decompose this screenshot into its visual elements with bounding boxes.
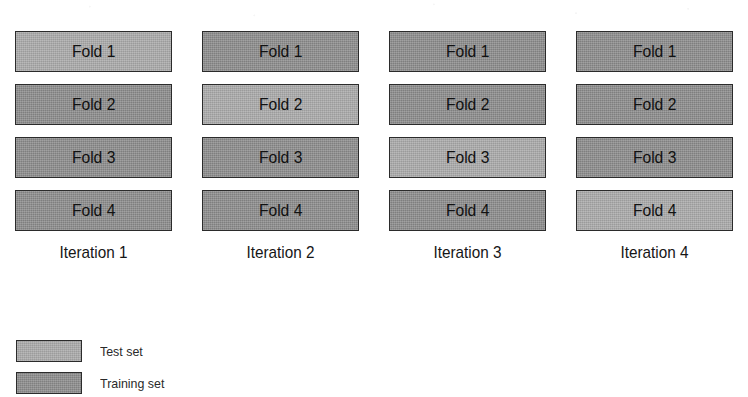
legend-label: Test set <box>100 344 143 359</box>
fold-block-i3-f3: Fold 3 <box>389 137 546 178</box>
legend-item-training-set: Training set <box>16 372 316 394</box>
fold-label: Fold 2 <box>446 95 489 115</box>
iteration-column-4: Fold 1 Fold 2 Fold 3 Fold 4 <box>576 31 733 231</box>
iteration-caption-4: Iteration 4 <box>584 243 725 269</box>
fold-label: Fold 2 <box>72 95 115 115</box>
iteration-columns: Fold 1 Fold 2 Fold 3 Fold 4 Fold 1 Fold … <box>15 31 733 231</box>
fold-label: Fold 2 <box>633 95 676 115</box>
legend-swatch-training-set <box>16 372 82 394</box>
fold-label: Fold 1 <box>72 42 115 62</box>
fold-label: Fold 3 <box>633 148 676 168</box>
fold-block-i1-f3: Fold 3 <box>15 137 172 178</box>
fold-block-i1-f2: Fold 2 <box>15 84 172 125</box>
fold-block-i4-f2: Fold 2 <box>576 84 733 125</box>
fold-block-i3-f4: Fold 4 <box>389 190 546 231</box>
iteration-captions: Iteration 1 Iteration 2 Iteration 3 Iter… <box>15 243 733 269</box>
fold-label: Fold 1 <box>633 42 676 62</box>
iteration-column-1: Fold 1 Fold 2 Fold 3 Fold 4 <box>15 31 172 231</box>
iteration-column-3: Fold 1 Fold 2 Fold 3 Fold 4 <box>389 31 546 231</box>
legend-item-test-set: Test set <box>16 340 316 362</box>
fold-label: Fold 4 <box>446 201 489 221</box>
iteration-caption-3: Iteration 3 <box>397 243 538 269</box>
fold-label: Fold 4 <box>259 201 302 221</box>
fold-block-i3-f1: Fold 1 <box>389 31 546 72</box>
cross-validation-diagram: Fold 1 Fold 2 Fold 3 Fold 4 Fold 1 Fold … <box>0 0 748 397</box>
fold-block-i2-f4: Fold 4 <box>202 190 359 231</box>
legend-swatch-test-set <box>16 340 82 362</box>
fold-label: Fold 4 <box>72 201 115 221</box>
fold-block-i1-f4: Fold 4 <box>15 190 172 231</box>
fold-label: Fold 3 <box>72 148 115 168</box>
fold-label: Fold 3 <box>259 148 302 168</box>
fold-block-i1-f1: Fold 1 <box>15 31 172 72</box>
fold-label: Fold 1 <box>259 42 302 62</box>
fold-label: Fold 3 <box>446 148 489 168</box>
fold-label: Fold 2 <box>259 95 302 115</box>
fold-label: Fold 4 <box>633 201 676 221</box>
fold-block-i2-f2: Fold 2 <box>202 84 359 125</box>
fold-label: Fold 1 <box>446 42 489 62</box>
legend: Test set Training set <box>16 340 316 394</box>
fold-block-i4-f3: Fold 3 <box>576 137 733 178</box>
iteration-caption-2: Iteration 2 <box>210 243 351 269</box>
legend-label: Training set <box>100 376 164 391</box>
fold-block-i4-f1: Fold 1 <box>576 31 733 72</box>
fold-block-i4-f4: Fold 4 <box>576 190 733 231</box>
iteration-caption-1: Iteration 1 <box>23 243 164 269</box>
scan-noise-texture <box>0 0 748 22</box>
fold-block-i2-f1: Fold 1 <box>202 31 359 72</box>
fold-block-i2-f3: Fold 3 <box>202 137 359 178</box>
iteration-column-2: Fold 1 Fold 2 Fold 3 Fold 4 <box>202 31 359 231</box>
fold-block-i3-f2: Fold 2 <box>389 84 546 125</box>
